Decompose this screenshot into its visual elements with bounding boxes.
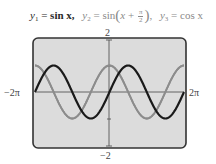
y-min-label: −2 — [100, 150, 111, 161]
x-max-label: 2π — [189, 87, 199, 98]
graph-window: 2 −2 −2π 2π — [0, 0, 216, 164]
x-min-label: −2π — [4, 87, 20, 98]
y-max-label: 2 — [105, 27, 110, 38]
